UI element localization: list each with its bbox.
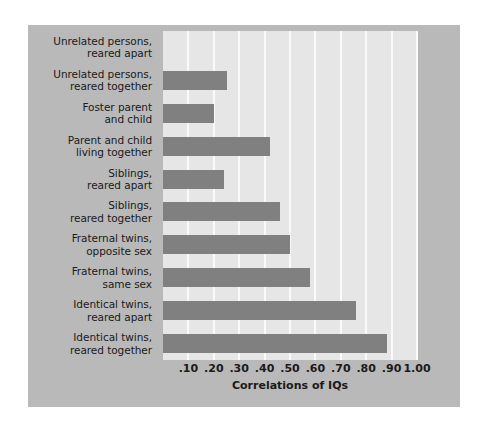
- category-label-line: opposite sex: [86, 245, 152, 258]
- category-label: Identical twins,reared apart: [28, 294, 158, 327]
- bar-chart: Unrelated persons,reared apartUnrelated …: [28, 25, 460, 407]
- category-label: Foster parentand child: [28, 97, 158, 130]
- x-tick-label: .30: [229, 362, 249, 375]
- category-label-line: reared apart: [87, 179, 152, 192]
- category-label: Siblings,reared apart: [28, 163, 158, 196]
- category-label-line: reared together: [70, 344, 152, 357]
- category-label-line: Unrelated persons,: [53, 68, 152, 81]
- bar: [163, 202, 280, 221]
- category-label-line: Siblings,: [108, 199, 152, 212]
- category-label: Unrelated persons,reared together: [28, 64, 158, 97]
- bar: [163, 235, 290, 254]
- category-label-line: reared apart: [87, 47, 152, 60]
- category-label-line: Unrelated persons,: [53, 35, 152, 48]
- category-label: Fraternal twins,same sex: [28, 261, 158, 294]
- x-tick-label: .60: [306, 362, 326, 375]
- x-tick-label: .80: [356, 362, 376, 375]
- bar-row: [163, 64, 417, 97]
- category-label-line: Parent and child: [68, 134, 152, 147]
- bar: [163, 104, 214, 123]
- bar: [163, 268, 310, 287]
- x-tick-label: .10: [179, 362, 199, 375]
- x-tick-label: .90: [382, 362, 402, 375]
- category-label: Siblings,reared together: [28, 196, 158, 229]
- category-label-line: and child: [104, 113, 152, 126]
- category-label: Identical twins,reared together: [28, 327, 158, 360]
- category-label-line: living together: [76, 146, 152, 159]
- bar: [163, 71, 227, 90]
- x-tick-label: .50: [280, 362, 300, 375]
- bar-row: [163, 31, 417, 64]
- x-axis-title: Correlations of IQs: [163, 379, 417, 392]
- bar: [163, 301, 356, 320]
- category-label-line: Identical twins,: [73, 298, 152, 311]
- bar: [163, 170, 224, 189]
- category-label-line: Fraternal twins,: [72, 232, 152, 245]
- bar: [163, 137, 270, 156]
- x-tick-label: .20: [204, 362, 224, 375]
- category-label-line: Fraternal twins,: [72, 265, 152, 278]
- x-tick-label: .70: [331, 362, 351, 375]
- bar: [163, 334, 387, 353]
- category-axis-labels: Unrelated persons,reared apartUnrelated …: [28, 31, 158, 360]
- bar-row: [163, 327, 417, 360]
- bar-row: [163, 228, 417, 261]
- bar-row: [163, 163, 417, 196]
- category-label-line: Foster parent: [82, 101, 152, 114]
- category-label-line: same sex: [103, 278, 153, 291]
- plot-area: [163, 31, 417, 360]
- x-tick-label: 1.00: [403, 362, 430, 375]
- category-label-line: Siblings,: [108, 167, 152, 180]
- x-tick-label: .40: [255, 362, 275, 375]
- bar-row: [163, 294, 417, 327]
- bar-series: [163, 31, 417, 360]
- category-label: Unrelated persons,reared apart: [28, 31, 158, 64]
- category-label: Parent and childliving together: [28, 130, 158, 163]
- bar-row: [163, 196, 417, 229]
- category-label-line: reared together: [70, 212, 152, 225]
- chart-panel: Unrelated persons,reared apartUnrelated …: [28, 25, 460, 407]
- category-label-line: Identical twins,: [73, 331, 152, 344]
- category-label: Fraternal twins,opposite sex: [28, 228, 158, 261]
- bar-row: [163, 261, 417, 294]
- category-label-line: reared apart: [87, 311, 152, 324]
- bar-row: [163, 130, 417, 163]
- bar-row: [163, 97, 417, 130]
- chart-figure: Unrelated persons,reared apartUnrelated …: [0, 0, 485, 428]
- x-axis-tick-labels: .10.20.30.40.50.60.70.80.901.00: [163, 362, 417, 380]
- category-label-line: reared together: [70, 80, 152, 93]
